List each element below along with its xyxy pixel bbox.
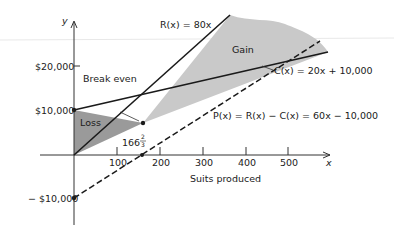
x-tick-label-200: 200 [152,157,170,168]
x-axis-label: x [325,157,332,168]
break-even-point [141,121,145,125]
x-axis-title: Suits produced [190,173,261,184]
x-tick-label-300: 300 [195,157,213,168]
break-even-label: Break even [83,73,137,84]
break-even-x-numerator: 2 [141,133,145,140]
y-tick-label-10000: $10,000 [35,105,74,116]
break-even-x-denominator: 3 [141,141,145,148]
break-even-x-whole: 166 [122,137,140,148]
page-fold-line [0,38,394,40]
x-tick-label-100: 100 [109,157,127,168]
profit-equation: P(x) = R(x) − C(x) = 60x − 10,000 [213,110,378,121]
cost-equation: C(x) = 20x + 10,000 [274,65,373,76]
x-tick-label-500: 500 [280,157,298,168]
y-tick-label-neg10000: − $10,000 [28,193,78,204]
x-tick-label-400: 400 [238,157,256,168]
y-tick-label-20000: $20,000 [35,61,74,72]
y-axis-label: y [61,15,68,26]
revenue-equation: R(x) = 80x [160,19,212,30]
break-even-chart: y x $20,000 $10,000 − $10,000 100 200 30… [0,0,394,241]
gain-label: Gain [232,44,254,55]
loss-label: Loss [80,117,101,128]
profit-zero-point [140,153,144,157]
